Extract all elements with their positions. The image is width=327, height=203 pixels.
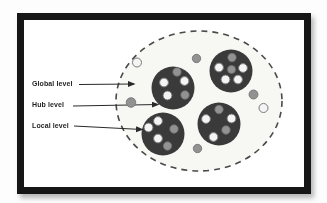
white-node-hub-top-right-5 [234, 75, 243, 84]
white-node-hub-left-3 [163, 91, 172, 100]
white-node-isolated-4 [259, 104, 268, 113]
white-node-hub-top-right-2 [239, 64, 248, 73]
white-node-hub-bottom-right-4 [209, 133, 218, 142]
gray-node-isolated-5 [193, 144, 201, 152]
white-node-hub-bottom-right-2 [227, 114, 236, 123]
white-node-hub-top-right-1 [215, 63, 224, 72]
legend-label-hub-level: Hub level [32, 101, 64, 109]
legend-label-local-level: Local level [32, 122, 69, 130]
white-node-hub-bottom-right-1 [202, 115, 211, 124]
figure-photo: Global level Hub level Local level [0, 0, 327, 203]
gray-node-hub-bottom-left-2 [170, 125, 178, 133]
legend-arrow-global [79, 84, 134, 85]
gray-node-hub-bottom-right-0 [215, 105, 223, 113]
gray-node-hub-left-0 [173, 68, 181, 76]
white-node-isolated-0 [133, 58, 142, 67]
white-node-hub-left-1 [160, 78, 169, 87]
legend-label-global-level: Global level [32, 80, 73, 88]
white-node-hub-bottom-left-0 [154, 117, 163, 126]
gray-node-hub-left-4 [181, 91, 189, 99]
gray-node-isolated-2 [126, 98, 136, 108]
gray-node-isolated-3 [249, 90, 258, 99]
white-node-hub-bottom-left-3 [154, 134, 163, 143]
gray-node-hub-bottom-left-4 [163, 142, 171, 150]
gray-node-hub-top-right-0 [228, 53, 236, 61]
white-node-hub-top-right-4 [221, 75, 230, 84]
white-node-hub-left-2 [180, 77, 189, 86]
gray-node-hub-top-right-3 [228, 66, 236, 74]
white-node-hub-bottom-left-1 [144, 123, 153, 132]
gray-node-hub-bottom-right-3 [222, 126, 230, 134]
gray-node-isolated-1 [192, 54, 200, 62]
hub-bottom-left [142, 113, 185, 156]
